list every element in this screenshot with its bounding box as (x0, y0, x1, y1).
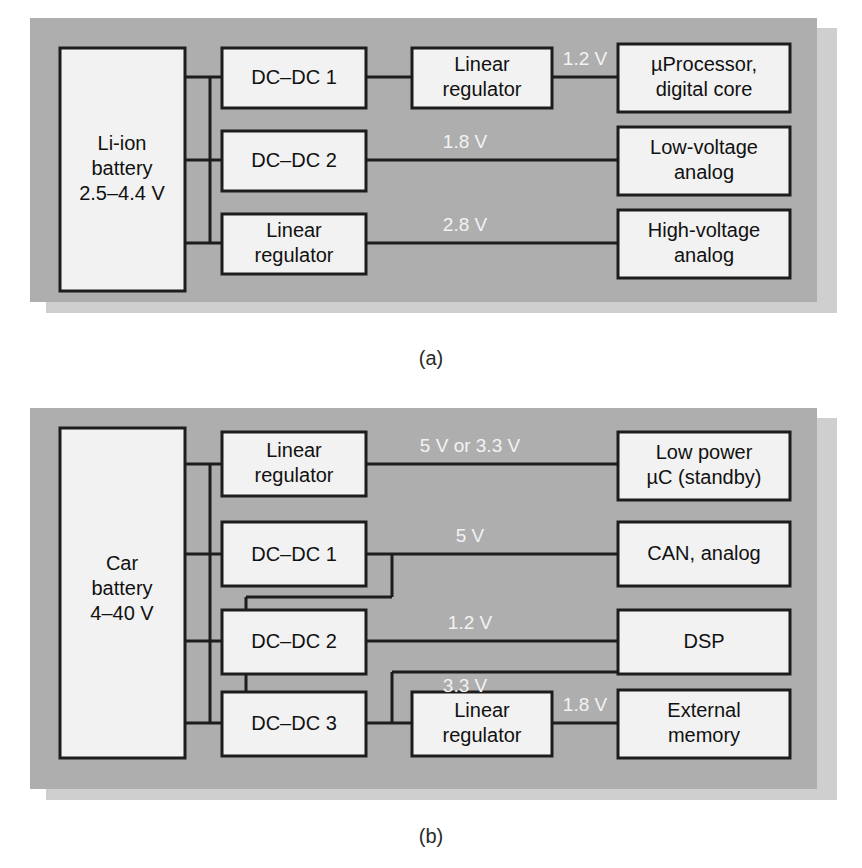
panel-a-load2-line1: Low-voltage (650, 136, 758, 158)
panel-a-stage2-linear-regulator: Linear regulator (412, 48, 552, 108)
panel-b-linreg1-line1: Linear (266, 439, 322, 461)
panel-b: Car battery 4–40 V Linear regulator DC–D… (30, 408, 837, 847)
panel-b-load3-label: DSP (683, 630, 724, 652)
panel-b-load1-line2: µC (standby) (647, 466, 762, 488)
panel-a-converter-dcdc1: DC–DC 1 (222, 48, 366, 108)
panel-b-converter-dcdc3: DC–DC 3 (222, 692, 366, 756)
panel-a-caption: (a) (419, 347, 443, 369)
panel-b-converter-dcdc2: DC–DC 2 (222, 610, 366, 674)
panel-b-stage2-linear-regulator: Linear regulator (412, 692, 552, 756)
panel-b-source-line3: 4–40 V (90, 602, 154, 624)
panel-b-rail-label-5v: 5 V (456, 525, 485, 546)
panel-a-load1-line2: digital core (656, 78, 753, 100)
panel-a: Li-ion battery 2.5–4.4 V DC–DC 1 DC–DC 2… (30, 18, 837, 369)
panel-b-source-line2: battery (91, 577, 152, 599)
panel-a-source-line2: battery (91, 157, 152, 179)
panel-b-converter-linear-regulator: Linear regulator (222, 432, 366, 496)
panel-a-load-high-voltage-analog: High-voltage analog (618, 210, 790, 278)
panel-b-converter-dcdc1: DC–DC 1 (222, 522, 366, 586)
panel-a-source-line3: 2.5–4.4 V (79, 182, 165, 204)
panel-a-load1-line1: µProcessor, (651, 53, 757, 75)
panel-a-load3-line1: High-voltage (648, 219, 760, 241)
panel-b-load2-label: CAN, analog (647, 542, 760, 564)
panel-a-linreg2-line2: regulator (443, 78, 522, 100)
panel-a-converter-dcdc2: DC–DC 2 (222, 131, 366, 191)
panel-b-caption: (b) (419, 825, 443, 847)
panel-a-linreg1-line1: Linear (266, 219, 322, 241)
panel-a-rail-label-1v2: 1.2 V (563, 48, 608, 69)
panel-b-source-line1: Car (106, 552, 139, 574)
panel-a-dcdc1-label: DC–DC 1 (251, 66, 337, 88)
panel-a-dcdc2-label: DC–DC 2 (251, 149, 337, 171)
panel-b-linreg1-line2: regulator (255, 464, 334, 486)
panel-a-load2-line2: analog (674, 161, 734, 183)
power-architecture-figure: Li-ion battery 2.5–4.4 V DC–DC 1 DC–DC 2… (0, 0, 862, 868)
panel-a-rail-label-2v8: 2.8 V (443, 214, 488, 235)
panel-b-load-can-analog: CAN, analog (618, 522, 790, 586)
panel-b-rail-label-1v2: 1.2 V (448, 612, 493, 633)
panel-b-dcdc1-label: DC–DC 1 (251, 543, 337, 565)
panel-a-linreg2-line1: Linear (454, 53, 510, 75)
panel-b-load1-line1: Low power (656, 441, 753, 463)
panel-a-load-microprocessor: µProcessor, digital core (618, 44, 790, 112)
panel-b-dcdc2-label: DC–DC 2 (251, 630, 337, 652)
panel-a-load3-line2: analog (674, 244, 734, 266)
panel-a-rail-label-1v8: 1.8 V (443, 131, 488, 152)
panel-b-load4-line1: External (667, 699, 740, 721)
panel-a-source-box: Li-ion battery 2.5–4.4 V (60, 48, 185, 291)
panel-a-linreg1-line2: regulator (255, 244, 334, 266)
panel-a-load-low-voltage-analog: Low-voltage analog (618, 127, 790, 195)
panel-b-dcdc3-label: DC–DC 3 (251, 712, 337, 734)
panel-b-rail-label-3v3: 3.3 V (443, 675, 488, 696)
panel-b-linreg2-line2: regulator (443, 724, 522, 746)
panel-b-load4-line2: memory (668, 724, 740, 746)
panel-b-load-dsp: DSP (618, 610, 790, 674)
panel-a-converter-linear-regulator: Linear regulator (222, 214, 366, 274)
panel-b-load-external-memory: External memory (618, 690, 790, 758)
panel-b-source-box: Car battery 4–40 V (60, 428, 185, 758)
panel-b-load-low-power-uc: Low power µC (standby) (618, 432, 790, 500)
panel-b-rail-label-1v8: 1.8 V (563, 694, 608, 715)
panel-b-linreg2-line1: Linear (454, 699, 510, 721)
panel-a-source-line1: Li-ion (98, 132, 147, 154)
panel-b-rail-label-5v-3v3: 5 V or 3.3 V (420, 435, 521, 456)
